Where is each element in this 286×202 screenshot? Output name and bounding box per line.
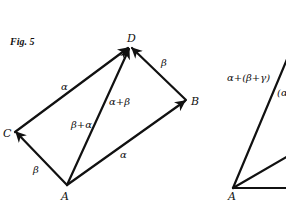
vector-label-AD-right: α+β bbox=[109, 96, 130, 107]
point-label-A-right: A bbox=[227, 190, 236, 202]
vector-label-CD: α bbox=[61, 81, 68, 92]
vector-label-AB: α bbox=[120, 149, 127, 160]
point-label-D: D bbox=[126, 32, 136, 45]
point-label-A: A bbox=[60, 190, 69, 202]
vector-AC bbox=[16, 132, 67, 185]
figure-caption: Fig. 5 bbox=[9, 36, 34, 47]
label-partial: (α bbox=[277, 87, 286, 98]
associativity-diagram: A α+(β+γ) (α bbox=[227, 52, 286, 202]
vector-label-AC: β bbox=[32, 164, 39, 175]
vector-BD bbox=[132, 48, 186, 100]
parallelogram-diagram: D C A B α β α β α+β β+α bbox=[3, 32, 199, 202]
vector-addition-figure: Fig. 5 D C A B α β α β α+β β+α A α+(β+γ)… bbox=[0, 0, 286, 202]
vector-AB bbox=[67, 101, 185, 185]
vector-label-AD-left: β+α bbox=[70, 119, 92, 130]
point-label-B: B bbox=[190, 95, 199, 108]
label-long-diagonal: α+(β+γ) bbox=[227, 72, 270, 83]
vector-label-BD: β bbox=[160, 57, 167, 68]
point-label-C: C bbox=[3, 127, 12, 140]
